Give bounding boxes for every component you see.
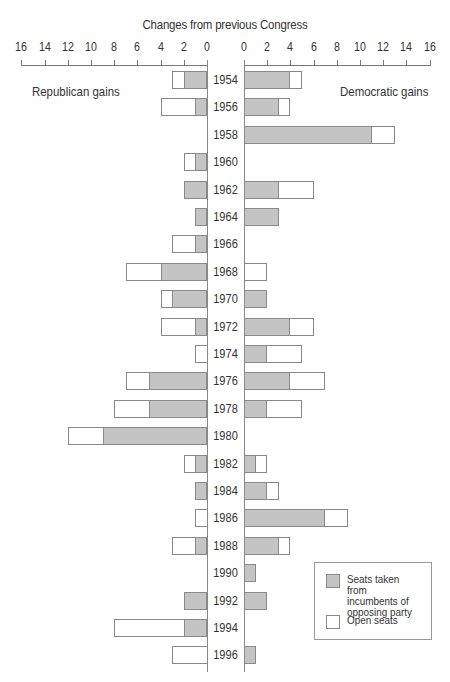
democratic-open-bar xyxy=(324,509,348,527)
republican-open-bar xyxy=(195,509,208,527)
right-axis-tick-label: 4 xyxy=(282,40,299,54)
democratic-open-bar xyxy=(278,98,291,116)
year-label: 1978 xyxy=(210,401,241,416)
republican-taken-bar xyxy=(195,208,207,226)
republican-taken-bar xyxy=(149,372,207,390)
republican-taken-bar xyxy=(184,181,207,199)
right-axis-tick-label: 12 xyxy=(375,40,392,54)
left-axis-tick xyxy=(161,60,162,66)
republican-open-bar xyxy=(195,345,208,363)
democratic-open-bar xyxy=(371,126,395,144)
year-label: 1974 xyxy=(210,346,241,361)
right-axis-tick-label: 16 xyxy=(421,40,438,54)
republican-taken-bar xyxy=(184,619,207,637)
democratic-taken-bar xyxy=(244,372,290,390)
right-axis-tick xyxy=(406,60,407,66)
left-axis-tick-label: 8 xyxy=(106,40,123,54)
year-label: 1986 xyxy=(210,510,241,525)
bar-row-1986: 1986 xyxy=(0,509,450,527)
year-label: 1996 xyxy=(210,647,241,662)
legend-label: Open seats xyxy=(347,615,419,626)
republican-taken-bar xyxy=(195,318,207,336)
democratic-open-bar xyxy=(266,400,302,418)
left-axis-tick-label: 4 xyxy=(152,40,169,54)
republican-open-bar xyxy=(126,263,162,281)
bar-row-1958: 1958 xyxy=(0,126,450,144)
year-label: 1980 xyxy=(210,428,241,443)
democratic-taken-bar xyxy=(244,98,279,116)
right-axis-tick-label: 8 xyxy=(328,40,345,54)
right-axis-tick xyxy=(383,60,384,66)
right-axis-tick-label: 0 xyxy=(236,40,253,54)
democratic-taken-bar xyxy=(244,509,325,527)
democratic-open-bar xyxy=(244,263,267,281)
republican-open-bar xyxy=(114,619,185,637)
left-axis-tick xyxy=(184,60,185,66)
year-label: 1964 xyxy=(210,209,241,224)
democratic-taken-bar xyxy=(244,482,267,500)
year-label: 1956 xyxy=(210,99,241,114)
bar-row-1974: 1974 xyxy=(0,345,450,363)
year-label: 1984 xyxy=(210,483,241,498)
bar-row-1976: 1976 xyxy=(0,372,450,390)
republican-open-bar xyxy=(68,427,104,445)
right-axis-tick-label: 6 xyxy=(305,40,322,54)
republican-open-bar xyxy=(172,537,196,555)
left-axis-tick-label: 12 xyxy=(59,40,76,54)
democratic-open-bar xyxy=(289,318,313,336)
legend-item-taken: Seats taken from incumbents of opposing … xyxy=(326,574,427,618)
year-label: 1958 xyxy=(210,127,241,142)
bar-row-1954: 1954 xyxy=(0,71,450,89)
bar-row-1982: 1982 xyxy=(0,455,450,473)
bar-row-1962: 1962 xyxy=(0,181,450,199)
democratic-taken-bar xyxy=(244,126,372,144)
republican-taken-bar xyxy=(149,400,207,418)
right-axis-tick xyxy=(430,60,431,66)
republican-taken-bar xyxy=(195,235,207,253)
democratic-taken-bar xyxy=(244,71,290,89)
bar-row-1980: 1980 xyxy=(0,427,450,445)
bar-row-1972: 1972 xyxy=(0,318,450,336)
right-axis-tick xyxy=(290,60,291,66)
democratic-open-bar xyxy=(278,537,291,555)
left-axis-tick-label: 0 xyxy=(199,40,216,54)
year-label: 1976 xyxy=(210,373,241,388)
left-axis-tick-label: 16 xyxy=(13,40,30,54)
left-axis-tick-label: 6 xyxy=(129,40,146,54)
year-label: 1988 xyxy=(210,538,241,553)
year-label: 1992 xyxy=(210,593,241,608)
republican-taken-bar xyxy=(161,263,207,281)
right-axis-tick-label: 10 xyxy=(352,40,369,54)
year-label: 1954 xyxy=(210,72,241,87)
republican-taken-bar xyxy=(195,482,207,500)
year-label: 1960 xyxy=(210,154,241,169)
taken-swatch-icon xyxy=(326,574,340,588)
left-axis-tick xyxy=(21,60,22,66)
bar-row-1984: 1984 xyxy=(0,482,450,500)
republican-taken-bar xyxy=(195,455,207,473)
left-axis-tick xyxy=(137,60,138,66)
democratic-taken-bar xyxy=(244,208,279,226)
republican-open-bar xyxy=(172,646,208,664)
year-label: 1994 xyxy=(210,620,241,635)
year-label: 1962 xyxy=(210,182,241,197)
right-axis-tick xyxy=(267,60,268,66)
bar-row-1978: 1978 xyxy=(0,400,450,418)
legend: Seats taken from incumbents of opposing … xyxy=(314,562,432,640)
democratic-open-bar xyxy=(278,181,314,199)
republican-taken-bar xyxy=(103,427,207,445)
democratic-taken-bar xyxy=(244,564,256,582)
democratic-taken-bar xyxy=(244,318,290,336)
democratic-taken-bar xyxy=(244,181,279,199)
year-label: 1990 xyxy=(210,565,241,580)
republican-open-bar xyxy=(126,372,150,390)
republican-taken-bar xyxy=(184,71,207,89)
republican-taken-bar xyxy=(195,537,207,555)
year-label: 1966 xyxy=(210,236,241,251)
left-axis-tick xyxy=(45,60,46,66)
democratic-taken-bar xyxy=(244,646,256,664)
republican-open-bar xyxy=(161,98,197,116)
right-axis-tick-label: 14 xyxy=(398,40,415,54)
year-label: 1972 xyxy=(210,319,241,334)
bar-row-1988: 1988 xyxy=(0,537,450,555)
